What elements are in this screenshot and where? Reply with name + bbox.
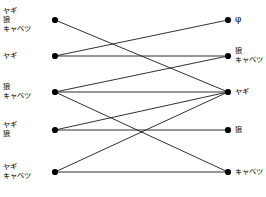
graph-edge	[55, 56, 228, 92]
node-label-line: 狼	[3, 82, 31, 91]
graph-edge	[55, 20, 228, 56]
node-label-line: キャベツ	[235, 167, 263, 176]
graph-node[interactable]	[225, 89, 231, 95]
node-label-line: キャベツ	[3, 24, 31, 33]
node-label-line: キャベツ	[3, 91, 31, 100]
node-label-line: 狼	[3, 129, 17, 138]
node-label-line: ヤギ	[3, 6, 31, 15]
node-label-line: キャベツ	[235, 55, 263, 64]
node-label-L5: ヤギキャベツ	[3, 162, 31, 180]
node-label-R4: 狼	[235, 125, 242, 134]
node-label-line: 狼	[235, 46, 263, 55]
graph-node[interactable]	[52, 53, 58, 59]
node-label-L1: ヤギ狼キャベツ	[3, 6, 31, 33]
graph-canvas	[0, 0, 266, 197]
node-label-R1: φ	[235, 15, 241, 24]
graph-node[interactable]	[225, 53, 231, 59]
node-layer	[52, 17, 231, 175]
node-label-R2: 狼キャベツ	[235, 46, 263, 64]
node-label-line: φ	[235, 15, 241, 24]
node-label-line: ヤギ	[235, 87, 249, 96]
graph-node[interactable]	[225, 169, 231, 175]
node-label-L2: ヤギ	[3, 51, 17, 60]
graph-edge	[55, 92, 228, 130]
node-label-L4: ヤギ狼	[3, 120, 17, 138]
graph-node[interactable]	[52, 17, 58, 23]
node-label-line: ヤギ	[3, 51, 17, 60]
node-label-line: ヤギ	[3, 162, 31, 171]
node-label-line: 狼	[235, 125, 242, 134]
graph-node[interactable]	[225, 127, 231, 133]
graph-node[interactable]	[52, 169, 58, 175]
edge-layer	[55, 20, 228, 172]
node-label-line: キャベツ	[3, 171, 31, 180]
node-label-R5: キャベツ	[235, 167, 263, 176]
graph-node[interactable]	[225, 17, 231, 23]
node-label-L3: 狼キャベツ	[3, 82, 31, 100]
state-graph-figure: ヤギ狼キャベツヤギ狼キャベツヤギ狼ヤギキャベツφ狼キャベツヤギ狼キャベツ	[0, 0, 266, 197]
node-label-R3: ヤギ	[235, 87, 249, 96]
node-label-line: ヤギ	[3, 120, 17, 129]
graph-node[interactable]	[52, 127, 58, 133]
graph-node[interactable]	[52, 89, 58, 95]
node-label-line: 狼	[3, 15, 31, 24]
